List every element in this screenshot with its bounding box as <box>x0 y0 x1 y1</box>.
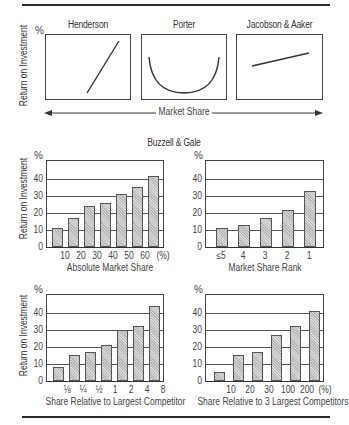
chart2-xtick: 2 <box>279 250 296 261</box>
chart4-bar-5 <box>290 326 301 381</box>
chart3-ytick-10: 10 <box>31 358 43 369</box>
bar-row1-y-axis-label: Return on Investment <box>18 152 29 246</box>
chart3-xtick: ¼ <box>75 384 92 395</box>
chart4-x-axis-label: Share Relative to 3 Largest Competitors <box>197 396 337 407</box>
chart2-ytick-40: 40 <box>190 173 202 184</box>
chart1-ytick-40: 40 <box>31 173 43 184</box>
chart1-xtick: 30 <box>89 250 106 261</box>
chart1-ytick-10: 10 <box>31 224 43 235</box>
gridline <box>206 330 323 331</box>
gridline <box>206 347 323 348</box>
top-y-axis-label: Return on Investment <box>18 19 29 113</box>
chart2-xtick: ≤5 <box>213 250 230 261</box>
chart2-bar-3 <box>260 218 272 247</box>
chart1-ytick-0: 0 <box>31 241 43 252</box>
chart1-bar-2 <box>68 218 79 247</box>
gridline <box>47 196 163 197</box>
chart1-xtick: 20 <box>73 250 90 261</box>
chart1-plot-area <box>46 160 164 248</box>
chart3-bar-6 <box>133 326 144 381</box>
chart3-ytick-30: 30 <box>31 324 43 335</box>
chart4-ytick-0: 0 <box>190 375 202 386</box>
chart4-bar-6 <box>309 311 320 381</box>
chart3-xtick: 4 <box>139 384 156 395</box>
chart1-x-axis-label: Absolute Market Share <box>63 262 157 273</box>
chart3-plot-area <box>46 294 164 382</box>
chart2-bar-2 <box>238 225 250 247</box>
chart3-xtick: 8 <box>155 384 172 395</box>
chart1-bar-4 <box>100 203 111 247</box>
chart3-bar-4 <box>101 345 112 381</box>
chart2-ytick-20: 20 <box>190 207 202 218</box>
chart3-xtick: 2 <box>123 384 140 395</box>
panel-henderson <box>45 34 131 100</box>
gridline <box>206 179 323 180</box>
chart1-ytick-30: 30 <box>31 190 43 201</box>
chart3-bar-7 <box>149 306 160 381</box>
chart2-ytick-10: 10 <box>190 224 202 235</box>
chart4-ytick-40: 40 <box>190 307 202 318</box>
chart1-bar-5 <box>116 194 127 247</box>
chart1-xtick: (%) <box>155 250 172 261</box>
chart2-xtick: 1 <box>301 250 318 261</box>
henderson-line-icon <box>46 35 130 99</box>
bottom-rule <box>22 416 330 418</box>
chart2-percent-label: % <box>194 150 203 161</box>
gridline <box>206 313 323 314</box>
chart4-xtick: 20 <box>242 384 259 395</box>
chart4-xtick: (%) <box>317 384 334 395</box>
chart1-bar-7 <box>148 176 159 247</box>
chart4-bar-3 <box>252 352 263 381</box>
chart3-xtick: 1 <box>107 384 124 395</box>
gridline <box>47 313 163 314</box>
chart4-xtick: 100 <box>280 384 297 395</box>
chart3-ytick-0: 0 <box>31 375 43 386</box>
chart1-ytick-20: 20 <box>31 207 43 218</box>
gridline <box>47 330 163 331</box>
top-percent-label: % <box>35 25 44 36</box>
top-rule <box>22 4 330 6</box>
chart3-x-axis-label: Share Relative to Largest Competitor <box>46 396 165 407</box>
panel-title-henderson: Henderson <box>51 19 124 30</box>
chart2-xtick: 4 <box>235 250 252 261</box>
jacobson-aaker-line-icon <box>237 35 322 99</box>
chart1-percent-label: % <box>34 150 43 161</box>
chart1-bar-3 <box>84 206 95 247</box>
chart3-percent-label: % <box>34 284 43 295</box>
gridline <box>47 179 163 180</box>
chart3-bar-3 <box>85 352 96 381</box>
chart4-ytick-10: 10 <box>190 358 202 369</box>
chart2-bar-4 <box>282 210 294 247</box>
chart1-bar-1 <box>52 228 63 247</box>
chart4-bar-4 <box>271 335 282 381</box>
chart4-xtick: 200 <box>299 384 316 395</box>
chart2-bar-5 <box>304 191 316 247</box>
panel-jacobson-aaker <box>236 34 323 100</box>
chart4-bar-1 <box>214 372 225 381</box>
chart4-xtick: 10 <box>223 384 240 395</box>
chart3-ytick-40: 40 <box>31 307 43 318</box>
chart2-ytick-30: 30 <box>190 190 202 201</box>
panel-title-jacobson-aaker: Jacobson & Aaker <box>243 19 317 30</box>
chart2-ytick-0: 0 <box>190 241 202 252</box>
chart3-xtick: ½ <box>91 384 108 395</box>
chart4-bar-2 <box>233 355 244 381</box>
chart4-ytick-30: 30 <box>190 324 202 335</box>
bar-row2-y-axis-label: Return on Investment <box>18 289 29 383</box>
chart3-bar-1 <box>53 367 64 381</box>
chart3-ytick-20: 20 <box>31 341 43 352</box>
chart4-ytick-20: 20 <box>190 341 202 352</box>
chart3-xtick: ⅛ <box>59 384 76 395</box>
panel-title-porter: Porter <box>147 19 220 30</box>
chart4-xtick: 30 <box>261 384 278 395</box>
section-title: Buzzell & Gale <box>132 137 217 148</box>
chart2-plot-area <box>205 160 324 248</box>
chart2-bar-1 <box>216 228 228 247</box>
chart1-xtick: 10 <box>57 250 74 261</box>
chart4-plot-area <box>205 294 324 382</box>
chart3-bar-2 <box>69 355 80 381</box>
panel-porter <box>141 34 227 100</box>
porter-u-curve-icon <box>142 35 226 99</box>
chart3-bar-5 <box>117 330 128 381</box>
gridline <box>206 364 323 365</box>
